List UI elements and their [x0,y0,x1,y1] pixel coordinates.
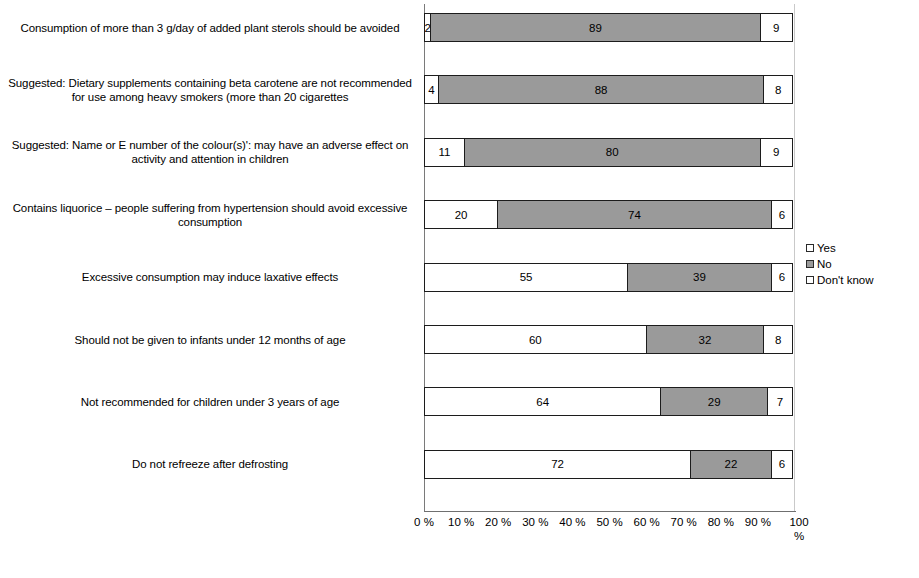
bar-segment-value: 8 [775,334,781,346]
bar-row: 2899 [424,13,795,42]
legend-label: No [817,256,832,272]
bar-row: 4888 [424,75,795,104]
bar-segment-don-t-know: 6 [771,200,793,229]
bar-segment-value: 6 [779,458,785,470]
category-label: Not recommended for children under 3 yea… [8,395,412,409]
legend-item[interactable]: No [806,256,916,272]
bar-segment-no: 39 [627,263,772,292]
category-label: Consumption of more than 3 g/day of adde… [8,21,412,35]
legend-swatch-icon [806,260,814,268]
legend-swatch-icon [806,244,814,252]
bar-segment-no: 22 [690,450,772,479]
bar-segment-don-t-know: 8 [763,75,793,104]
bar-segment-no: 29 [660,387,768,416]
chart-legend: YesNoDon't know [806,240,916,288]
category-label: Excessive consumption may induce laxativ… [8,270,412,284]
bar-segment-don-t-know: 6 [771,263,793,292]
category-label-column: Consumption of more than 3 g/day of adde… [0,0,418,520]
bar-segment-no: 32 [646,325,765,354]
x-axis-tick: 90 % [736,515,780,529]
legend-label: Don't know [817,272,874,288]
bar-segment-yes: 55 [424,263,628,292]
bar-segment-value: 11 [438,146,450,158]
plot-area: 28994888118092074655396603286429772226 [424,4,795,511]
bar-segment-value: 9 [773,146,779,158]
bar-segment-value: 60 [529,334,542,346]
stacked-bar-chart: Consumption of more than 3 g/day of adde… [0,0,919,578]
bar-row: 55396 [424,263,795,292]
bar-segment-yes: 11 [424,138,465,167]
bar-segment-value: 88 [595,84,608,96]
bar-segment-value: 29 [708,396,721,408]
bar-segment-value: 8 [775,84,781,96]
bar-segment-value: 64 [536,396,549,408]
bar-row: 11809 [424,138,795,167]
bar-segment-value: 6 [779,209,785,221]
legend-item[interactable]: Don't know [806,272,916,288]
bar-segment-value: 7 [777,396,783,408]
bar-segment-value: 9 [773,22,779,34]
bar-row: 60328 [424,325,795,354]
bar-segment-yes: 60 [424,325,647,354]
legend-label: Yes [817,240,836,256]
category-label: Contains liquorice – people suffering fr… [8,201,412,229]
x-axis-line [424,511,796,512]
bar-segment-no: 88 [438,75,764,104]
category-label: Suggested: Name or E number of the colou… [8,138,412,166]
bar-segment-value: 20 [455,209,468,221]
bar-segment-value: 22 [725,458,738,470]
bar-segment-don-t-know: 7 [767,387,793,416]
bar-segment-no: 89 [430,13,760,42]
bar-segment-value: 89 [589,22,602,34]
bar-segment-value: 80 [606,146,619,158]
bar-segment-don-t-know: 6 [771,450,793,479]
legend-item[interactable]: Yes [806,240,916,256]
bar-segment-don-t-know: 9 [760,138,793,167]
bar-segment-value: 6 [779,271,785,283]
bar-row: 64297 [424,387,795,416]
bar-segment-don-t-know: 9 [760,13,793,42]
bar-segment-yes: 72 [424,450,691,479]
x-axis-tick: 100% [777,515,821,543]
bar-segment-no: 74 [497,200,772,229]
bar-segment-don-t-know: 8 [763,325,793,354]
category-label: Suggested: Dietary supplements containin… [8,76,412,104]
bar-segment-value: 74 [628,209,641,221]
bar-segment-yes: 64 [424,387,661,416]
x-axis-tick-labels: 0 %10 %20 %30 %40 %50 %60 %70 %80 %90 %1… [424,515,804,555]
bar-segment-value: 39 [693,271,706,283]
category-label: Do not refreeze after defrosting [8,457,412,471]
bar-segment-value: 55 [520,271,533,283]
legend-swatch-icon [806,276,814,284]
bar-row: 20746 [424,200,795,229]
bar-segment-yes: 20 [424,200,498,229]
bar-segment-value: 4 [428,84,434,96]
bar-segment-no: 80 [464,138,761,167]
bar-segment-yes: 4 [424,75,439,104]
category-label: Should not be given to infants under 12 … [8,333,412,347]
bar-segment-value: 72 [551,458,564,470]
bar-segment-value: 32 [699,334,712,346]
bar-row: 72226 [424,450,795,479]
